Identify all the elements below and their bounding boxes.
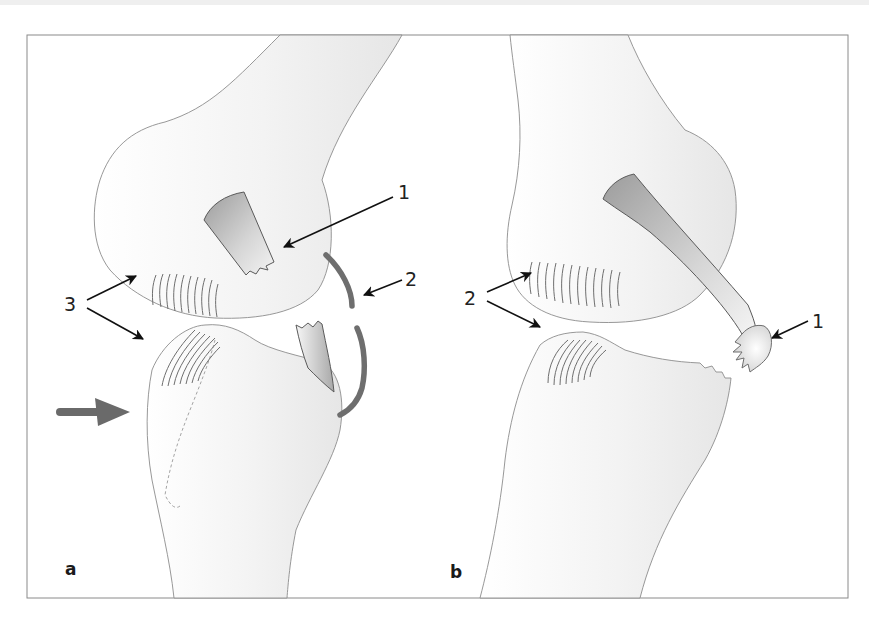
leader-3a-upper [87, 276, 136, 300]
callout-2-a: 2 [405, 268, 417, 290]
knee-injury-diagram: 1 2 3 a [0, 0, 869, 623]
avulsed-fragment-b [733, 325, 771, 372]
top-scan-band [0, 0, 869, 5]
tibia-b [480, 332, 731, 598]
meniscus-lower-a [340, 328, 364, 415]
panel-label-b: b [450, 562, 462, 582]
panel-a: 1 2 3 a [60, 35, 417, 598]
figure-frame [27, 35, 848, 598]
force-arrow-icon [60, 398, 130, 426]
leader-2-a [364, 280, 402, 295]
callout-1-b: 1 [812, 310, 824, 332]
panel-b: 1 2 b [450, 35, 824, 598]
leader-1-b [772, 321, 808, 338]
callout-2-b: 2 [464, 287, 476, 309]
callout-1-a: 1 [398, 181, 410, 203]
femur-a [94, 35, 402, 318]
callout-3-a: 3 [64, 293, 76, 315]
meniscus-upper-a [326, 255, 352, 306]
leader-3a-lower [87, 308, 143, 339]
panel-label-a: a [65, 559, 76, 579]
